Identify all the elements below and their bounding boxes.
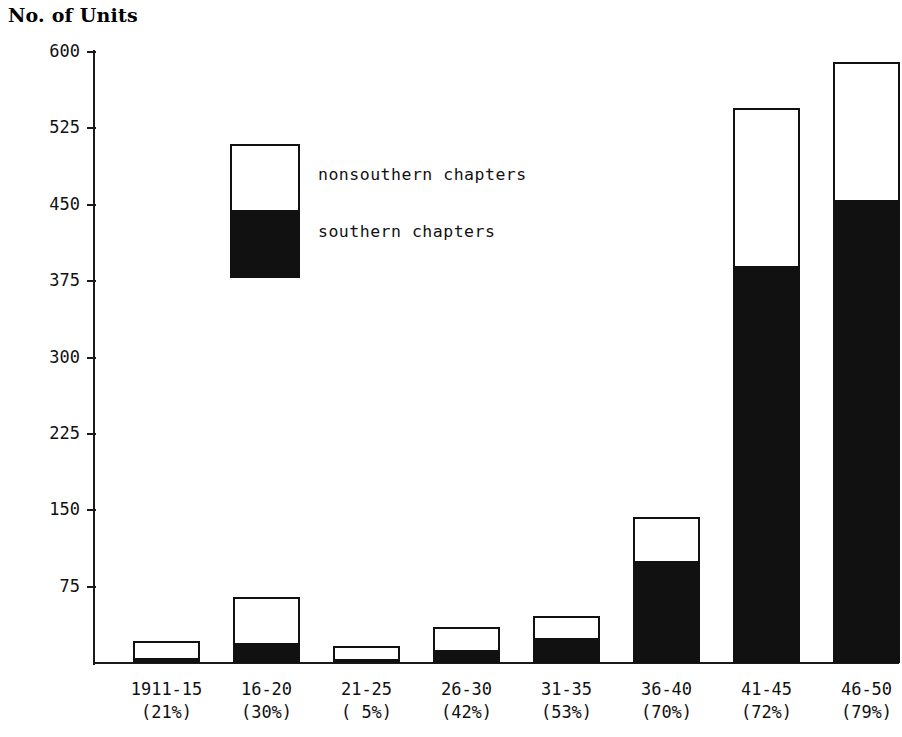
bar-segment-southern-46-50: [833, 200, 900, 663]
y-tick-label-text: 150: [28, 499, 80, 519]
legend-label-nonsouthern: nonsouthern chapters: [318, 165, 527, 184]
y-tick-mark: [87, 586, 96, 588]
bar-segment-southern-26-30: [433, 650, 500, 663]
y-tick-label-text: 525: [28, 117, 80, 137]
x-axis-label-26-30: 26-30(42%): [417, 678, 516, 724]
y-tick-mark: [87, 433, 96, 435]
y-tick-label-text: 375: [28, 270, 80, 290]
y-tick-label: 450: [22, 194, 80, 214]
x-axis-label-percent: (53%): [517, 701, 616, 724]
x-axis-label-36-40: 36-40(70%): [617, 678, 716, 724]
x-axis-label-period: 26-30: [417, 678, 516, 701]
bar-segment-southern-21-25: [333, 659, 400, 663]
y-tick-label: 525: [22, 117, 80, 137]
bar-segment-southern-36-40: [633, 561, 700, 663]
y-tick-label-text: 450: [28, 194, 80, 214]
y-tick-label-text: 600: [28, 41, 80, 61]
x-axis-label-21-25: 21-25( 5%): [317, 678, 416, 724]
bar-segment-southern-31-35: [533, 638, 600, 663]
y-tick-label: 300: [22, 347, 80, 367]
y-tick-mark: [87, 204, 96, 206]
y-tick-mark: [87, 127, 96, 129]
y-tick-mark: [87, 280, 96, 282]
x-axis-label-percent: (70%): [617, 701, 716, 724]
x-axis-label-period: 46-50: [817, 678, 902, 701]
x-axis-label-period: 1911-15: [117, 678, 216, 701]
x-axis-label-period: 41-45: [717, 678, 816, 701]
x-axis-label-percent: (72%): [717, 701, 816, 724]
x-axis-label-16-20: 16-20(30%): [217, 678, 316, 724]
x-axis-label-percent: (42%): [417, 701, 516, 724]
y-tick-mark: [87, 51, 96, 53]
y-tick-label: 225: [22, 423, 80, 443]
legend-label-southern: southern chapters: [318, 222, 495, 241]
x-axis-label-46-50: 46-50(79%): [817, 678, 902, 724]
chart-axis-title: No. of Units: [8, 4, 138, 26]
legend-swatch-southern: [230, 210, 300, 278]
x-axis-label-percent: (79%): [817, 701, 902, 724]
x-axis-label-period: 21-25: [317, 678, 416, 701]
y-tick-label-text: 300: [28, 347, 80, 367]
bar-chart: No. of Units 60052545037530022515075 191…: [0, 0, 902, 737]
x-axis-label-percent: (30%): [217, 701, 316, 724]
x-axis-label-1911-15: 1911-15(21%): [117, 678, 216, 724]
y-tick-label: 150: [22, 499, 80, 519]
y-tick-mark: [87, 509, 96, 511]
y-tick-label: 600: [22, 41, 80, 61]
x-axis-label-percent: ( 5%): [317, 701, 416, 724]
x-axis-label-period: 31-35: [517, 678, 616, 701]
bar-segment-southern-41-45: [733, 266, 800, 663]
x-axis-label-period: 36-40: [617, 678, 716, 701]
y-tick-label-text: 225: [28, 423, 80, 443]
x-axis-label-41-45: 41-45(72%): [717, 678, 816, 724]
x-axis-label-31-35: 31-35(53%): [517, 678, 616, 724]
y-tick-mark: [87, 357, 96, 359]
bar-segment-southern-1911-15: [133, 658, 200, 663]
x-axis-label-percent: (21%): [117, 701, 216, 724]
bar-segment-southern-16-20: [233, 643, 300, 663]
y-tick-label-text: 75: [28, 576, 80, 596]
y-tick-label: 375: [22, 270, 80, 290]
x-axis-label-period: 16-20: [217, 678, 316, 701]
y-tick-label: 75: [22, 576, 80, 596]
